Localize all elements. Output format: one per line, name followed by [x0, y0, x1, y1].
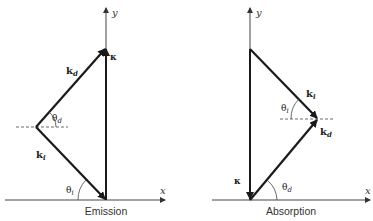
- emission-theta-i-label: θi: [66, 185, 74, 197]
- absorption-ki-label: ki: [306, 88, 316, 101]
- absorption-caption: Absorption: [266, 205, 316, 217]
- emission-theta-i-arc: [78, 180, 86, 200]
- absorption-y-label: y: [255, 7, 262, 18]
- emission-kappa-label: κ: [110, 52, 117, 62]
- emission-theta-d-label: θd: [52, 113, 62, 125]
- emission-caption: Emission: [85, 205, 128, 217]
- absorption-theta-i-arc: [291, 99, 299, 119]
- emission-ki-label: ki: [36, 149, 46, 162]
- emission-kd-vector: [36, 49, 105, 127]
- absorption-theta-i-label: θi: [281, 103, 289, 115]
- absorption-panel: x y ki kd κ θi θd Absorption: [212, 7, 371, 217]
- absorption-theta-d-arc: [267, 180, 277, 200]
- emission-kd-label: kd: [66, 65, 78, 78]
- absorption-theta-d-label: θd: [282, 182, 292, 194]
- absorption-kappa-label: κ: [234, 176, 241, 186]
- emission-panel: x y kd ki κ θd θi Emission: [5, 7, 166, 217]
- absorption-kd-label: kd: [320, 126, 332, 139]
- absorption-x-label: x: [365, 185, 371, 196]
- wave-vector-diagram: x y kd ki κ θd θi Emission x y: [0, 0, 373, 221]
- emission-x-label: x: [160, 185, 166, 196]
- emission-y-label: y: [111, 7, 118, 18]
